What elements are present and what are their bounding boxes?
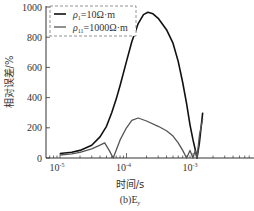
y-tick-label: 600	[27, 62, 42, 73]
x-tick-label: 10-3	[183, 162, 198, 173]
series-line-2	[60, 118, 203, 158]
x-tick-label: 10-4	[116, 162, 131, 173]
y-axis-title: 相对误差/%	[3, 56, 15, 109]
x-axis-ticks: 10-510-410-3	[50, 153, 250, 173]
legend: ρ1=10Ω·m ρ11=1000Ω·m	[50, 6, 136, 36]
y-tick-label: 200	[27, 122, 42, 133]
y-tick-label: 0	[37, 153, 42, 164]
line-chart: 02004006008001000 10-510-410-3 ρ1=10Ω·m …	[0, 0, 254, 211]
chart-caption: (b)Ey	[120, 194, 141, 206]
y-tick-label: 400	[27, 92, 42, 103]
x-tick-label: 10-5	[50, 162, 65, 173]
x-axis-title: 时间/s	[116, 178, 145, 190]
y-tick-label: 800	[27, 32, 42, 43]
y-tick-label: 1000	[22, 2, 42, 13]
